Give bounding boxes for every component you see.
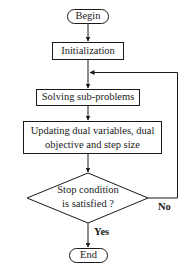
solve-label: Solving sub-problems	[36, 91, 140, 103]
stop-label-line2: is satisfied ?	[40, 198, 136, 210]
update-label-line2: objective and step size	[23, 139, 162, 151]
end-label: End	[69, 249, 108, 261]
stop-label-line1: Stop condition	[40, 184, 136, 196]
update-label-line1: Updating dual variables, dual	[23, 125, 162, 137]
no-edge-label: No	[158, 201, 171, 213]
begin-label: Begin	[67, 10, 109, 22]
init-label: Initialization	[52, 45, 124, 57]
yes-edge-label: Yes	[94, 226, 109, 238]
